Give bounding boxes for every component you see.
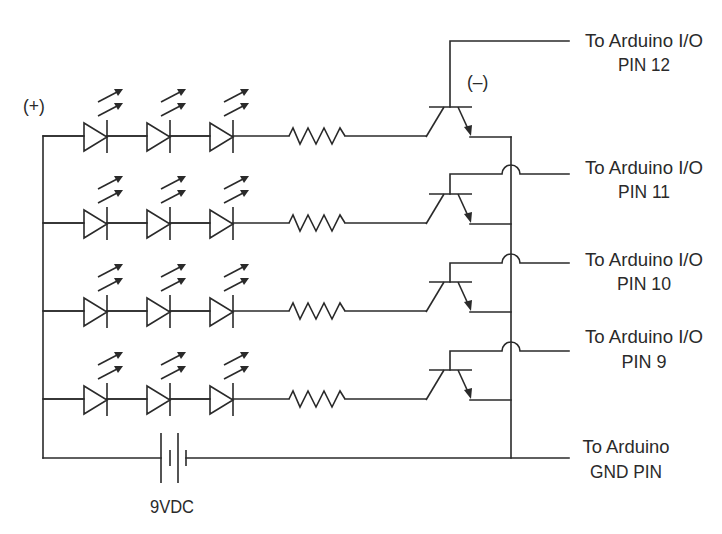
svg-text:PIN 10: PIN 10 — [617, 274, 671, 294]
base-line-pin10 — [450, 254, 569, 282]
led-row-1 — [43, 89, 426, 153]
led-icon — [106, 176, 186, 240]
svg-text:PIN 11: PIN 11 — [618, 182, 670, 202]
led-icon — [43, 176, 123, 240]
ground-label: To Arduino GND PIN — [583, 437, 670, 482]
svg-text:To Arduino: To Arduino — [583, 437, 670, 457]
output-label-pin11: To Arduino I/O PIN 11 — [585, 158, 703, 202]
svg-text:PIN 9: PIN 9 — [622, 352, 667, 372]
positive-label: (+) — [23, 96, 45, 116]
led-icon — [169, 176, 249, 240]
transistor-1 — [426, 41, 569, 137]
battery-9vdc — [43, 433, 569, 483]
svg-text:To Arduino I/O: To Arduino I/O — [585, 327, 703, 347]
output-label-pin10: To Arduino I/O PIN 10 — [585, 250, 703, 294]
led-icon — [169, 264, 249, 328]
led-icon — [106, 352, 186, 416]
led-row-3 — [43, 264, 426, 328]
transistor-3 — [426, 254, 569, 312]
led-transistor-schematic: (+) (–) To Arduino I/O PIN 12 To Arduino… — [0, 0, 722, 534]
resistor-icon — [289, 391, 345, 407]
svg-text:To Arduino I/O: To Arduino I/O — [585, 250, 703, 270]
led-icon — [106, 264, 186, 328]
led-icon — [43, 264, 123, 328]
led-icon — [169, 89, 249, 153]
svg-text:PIN 12: PIN 12 — [618, 55, 670, 75]
output-label-pin9: To Arduino I/O PIN 9 — [585, 327, 703, 372]
transistor-4 — [426, 342, 569, 400]
resistor-icon — [289, 303, 345, 319]
led-row-4 — [43, 352, 426, 416]
svg-text:GND PIN: GND PIN — [590, 462, 662, 482]
transistor-2 — [426, 165, 569, 224]
svg-text:To Arduino I/O: To Arduino I/O — [585, 31, 703, 51]
base-line-pin9 — [450, 342, 569, 370]
led-row-2 — [43, 176, 426, 240]
led-icon — [169, 352, 249, 416]
battery-label: 9VDC — [150, 497, 194, 517]
led-icon — [43, 89, 123, 153]
base-line-pin11 — [450, 165, 569, 194]
resistor-icon — [289, 128, 345, 144]
negative-label: (–) — [467, 72, 488, 92]
output-label-pin12: To Arduino I/O PIN 12 — [585, 31, 703, 75]
led-icon — [43, 352, 123, 416]
svg-text:To Arduino I/O: To Arduino I/O — [585, 158, 703, 178]
led-icon — [106, 89, 186, 153]
resistor-icon — [289, 215, 345, 231]
